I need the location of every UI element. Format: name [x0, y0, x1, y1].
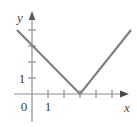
origin-label: 0: [21, 99, 28, 114]
y-axis-arrow-icon: [29, 11, 36, 20]
x-tick-label-1: 1: [45, 99, 52, 114]
y-axis-label: y: [15, 10, 23, 25]
graph-figure: y x 0 1 1: [0, 0, 137, 127]
x-axis-label: x: [123, 100, 130, 115]
y-tick-label-1: 1: [19, 71, 26, 86]
coordinate-plot: y x 0 1 1: [0, 0, 137, 127]
x-axis-arrow-icon: [120, 91, 129, 98]
